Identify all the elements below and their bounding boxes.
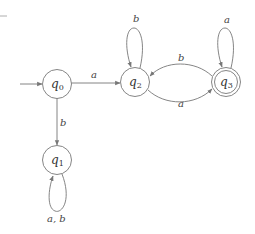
state-q3-accepting: q3 [212, 68, 241, 97]
edge-q1-loop [49, 174, 66, 211]
state-q2: q2 [121, 68, 150, 97]
edge-label-q2-q3: a [178, 98, 184, 109]
edge-label-q3-loop: a [224, 14, 230, 25]
state-q0: q0 [43, 70, 72, 99]
automaton-diagram: a b a, b b a b a q0 q1 q2 q3 [0, 0, 255, 234]
edge-label-q2-loop: b [133, 13, 139, 24]
edge-label-q3-q2: b [178, 52, 184, 63]
edge-label-q0-q1: b [60, 117, 66, 128]
edge-q2-loop [127, 28, 143, 68]
edge-label-q1-loop: a, b [47, 213, 66, 224]
state-q1: q1 [43, 146, 72, 175]
edge-q3-loop [218, 28, 234, 68]
edge-label-q0-q2: a [91, 69, 97, 80]
edge-q3-q2 [150, 64, 212, 76]
